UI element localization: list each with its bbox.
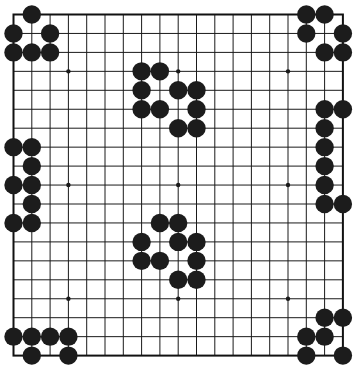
black-stone[interactable]	[23, 214, 41, 232]
black-stone[interactable]	[23, 195, 41, 213]
black-stone[interactable]	[297, 24, 315, 42]
black-stone[interactable]	[297, 346, 315, 364]
black-stone[interactable]	[4, 24, 22, 42]
black-stone[interactable]	[315, 157, 333, 175]
black-stone[interactable]	[315, 100, 333, 118]
black-stone[interactable]	[151, 100, 169, 118]
black-stone[interactable]	[315, 327, 333, 345]
black-stone[interactable]	[23, 327, 41, 345]
black-stone[interactable]	[169, 271, 187, 289]
star-point	[66, 183, 70, 187]
black-stone[interactable]	[315, 43, 333, 61]
black-stone[interactable]	[315, 138, 333, 156]
black-stone[interactable]	[41, 24, 59, 42]
black-stone[interactable]	[151, 252, 169, 270]
black-stone[interactable]	[334, 24, 352, 42]
black-stone[interactable]	[4, 327, 22, 345]
black-stone[interactable]	[132, 100, 150, 118]
go-board-svg[interactable]	[0, 0, 356, 369]
star-point	[176, 183, 180, 187]
star-point	[286, 183, 290, 187]
black-stone[interactable]	[4, 214, 22, 232]
black-stone[interactable]	[23, 157, 41, 175]
black-stone[interactable]	[23, 5, 41, 23]
black-stone[interactable]	[187, 119, 205, 137]
black-stone[interactable]	[187, 81, 205, 99]
black-stone[interactable]	[169, 214, 187, 232]
black-stone[interactable]	[59, 346, 77, 364]
star-point	[66, 69, 70, 73]
black-stone[interactable]	[315, 119, 333, 137]
black-stone[interactable]	[315, 309, 333, 327]
black-stone[interactable]	[132, 233, 150, 251]
black-stone[interactable]	[334, 43, 352, 61]
star-point	[286, 69, 290, 73]
star-point	[176, 69, 180, 73]
black-stone[interactable]	[334, 100, 352, 118]
black-stone[interactable]	[132, 252, 150, 270]
black-stone[interactable]	[23, 346, 41, 364]
black-stone[interactable]	[132, 62, 150, 80]
go-board[interactable]	[0, 0, 356, 369]
black-stone[interactable]	[169, 81, 187, 99]
black-stone[interactable]	[297, 327, 315, 345]
black-stone[interactable]	[315, 195, 333, 213]
star-point	[286, 297, 290, 301]
black-stone[interactable]	[169, 233, 187, 251]
black-stone[interactable]	[23, 43, 41, 61]
black-stone[interactable]	[297, 5, 315, 23]
star-point	[66, 297, 70, 301]
black-stone[interactable]	[315, 176, 333, 194]
black-stone[interactable]	[315, 5, 333, 23]
black-stone[interactable]	[4, 176, 22, 194]
black-stone[interactable]	[4, 43, 22, 61]
black-stone[interactable]	[132, 81, 150, 99]
black-stone[interactable]	[334, 195, 352, 213]
black-stone[interactable]	[41, 327, 59, 345]
star-point	[176, 297, 180, 301]
black-stone[interactable]	[59, 327, 77, 345]
black-stone[interactable]	[187, 252, 205, 270]
black-stone[interactable]	[169, 119, 187, 137]
black-stone[interactable]	[187, 233, 205, 251]
black-stone[interactable]	[187, 100, 205, 118]
black-stone[interactable]	[23, 176, 41, 194]
black-stone[interactable]	[151, 214, 169, 232]
black-stone[interactable]	[187, 271, 205, 289]
black-stone[interactable]	[4, 138, 22, 156]
black-stone[interactable]	[41, 43, 59, 61]
black-stone[interactable]	[151, 62, 169, 80]
black-stone[interactable]	[23, 138, 41, 156]
black-stone[interactable]	[334, 346, 352, 364]
black-stone[interactable]	[334, 309, 352, 327]
